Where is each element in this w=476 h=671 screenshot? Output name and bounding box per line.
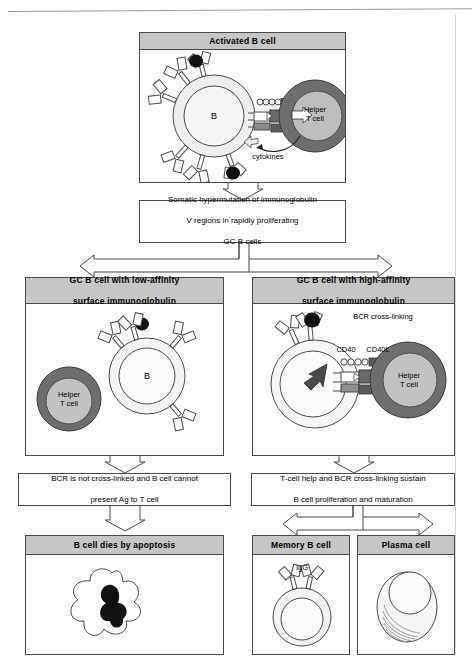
- low-outcome-line2: present Ag to T cell: [46, 495, 203, 506]
- high-affinity-panel: BCR cross-linking CD40 CD40L Helper T ce…: [252, 304, 455, 456]
- arrow-high-to-outcome: [333, 456, 375, 474]
- somatic-hypermutation-box: Somatic hypermutation of immunoglobulin …: [139, 200, 346, 243]
- high-affinity-header: GC B cell with high-affinity surface imm…: [252, 277, 455, 304]
- helper-t-low-line1: Helper: [58, 390, 80, 399]
- apoptosis-header: B cell dies by apoptosis: [25, 535, 224, 555]
- helper-t-low-line2: T cell: [60, 399, 78, 408]
- b-cell-letter-low: B: [144, 371, 150, 381]
- high-outcome-line1: T-cell help and BCR cross-linking sustai…: [275, 474, 430, 485]
- cd40-label: CD40: [331, 345, 361, 354]
- plasma-cell-header-label: Plasma cell: [378, 540, 435, 551]
- helper-t-cell-line1: Helper: [304, 105, 326, 114]
- arrow-outcome-to-apoptosis: [104, 506, 146, 532]
- memory-b-cell-header: Memory B cell: [252, 535, 350, 555]
- low-affinity-header-label: GC B cell with low-affinity surface immu…: [62, 275, 188, 307]
- arrow-split-memory-plasma: [283, 506, 433, 537]
- low-affinity-illustration: B: [26, 304, 224, 456]
- high-affinity-outcome-box: T-cell help and BCR cross-linking sustai…: [251, 473, 455, 506]
- helper-t-high-line1: Helper: [398, 371, 420, 380]
- cd40l-label: CD40L: [361, 345, 395, 354]
- high-outcome-text: T-cell help and BCR cross-linking sustai…: [270, 474, 435, 506]
- low-outcome-text: BCR is not cross-linked and B cell canno…: [41, 474, 208, 506]
- memory-b-cell-panel: IgG: [252, 555, 350, 655]
- figure-canvas: Activated B cell: [0, 0, 476, 671]
- shm-line2: V regions in rapidly proliferating: [163, 216, 322, 227]
- high-affinity-header-label: GC B cell with high-affinity surface imm…: [289, 275, 419, 307]
- igg-label: IgG: [286, 563, 318, 572]
- low-outcome-line1: BCR is not cross-linked and B cell canno…: [46, 474, 203, 485]
- somatic-hypermutation-text: Somatic hypermutation of immunoglobulin …: [158, 195, 327, 248]
- bcr-cross-linking-label: BCR cross-linking: [335, 312, 431, 321]
- page-edge-right-line: [455, 14, 456, 654]
- helper-t-cell-line2: T cell: [306, 114, 324, 123]
- apoptosis-header-label: B cell dies by apoptosis: [70, 540, 180, 551]
- apoptotic-cell-illustration: [26, 555, 224, 655]
- arrow-low-to-outcome: [104, 456, 146, 474]
- plasma-cell-illustration: [358, 555, 455, 655]
- cytokines-label: cytokines: [240, 152, 296, 161]
- low-affinity-panel: B: [25, 304, 224, 456]
- plasma-cell-panel: [357, 555, 455, 655]
- memory-b-cell-header-label: Memory B cell: [267, 540, 335, 551]
- crosslinking-antigen-blob: [304, 313, 320, 328]
- activated-b-cell-header: Activated B cell: [139, 32, 346, 50]
- helper-t-cell-label-high: Helper T cell: [386, 371, 432, 389]
- activated-b-cell-panel: B: [139, 50, 346, 183]
- plasma-cell-header: Plasma cell: [357, 535, 455, 555]
- b-cell-letter: B: [211, 111, 217, 121]
- page-edge-line: [8, 8, 472, 12]
- activated-b-cell-header-label: Activated B cell: [205, 36, 280, 47]
- high-affinity-header-line1: GC B cell with high-affinity: [293, 275, 415, 286]
- high-outcome-line2: B cell proliferation and maturation: [275, 495, 430, 506]
- helper-t-high-line2: T cell: [400, 380, 418, 389]
- low-affinity-outcome-box: BCR is not cross-linked and B cell canno…: [18, 473, 231, 506]
- apoptosis-panel: [25, 555, 224, 655]
- helper-t-cell-label-low: Helper T cell: [47, 390, 91, 408]
- helper-t-cell-label-top: Helper T cell: [292, 105, 338, 123]
- low-affinity-header: GC B cell with low-affinity surface immu…: [25, 277, 224, 304]
- shm-line1: Somatic hypermutation of immunoglobulin: [163, 195, 322, 206]
- low-affinity-header-line1: GC B cell with low-affinity: [66, 275, 184, 286]
